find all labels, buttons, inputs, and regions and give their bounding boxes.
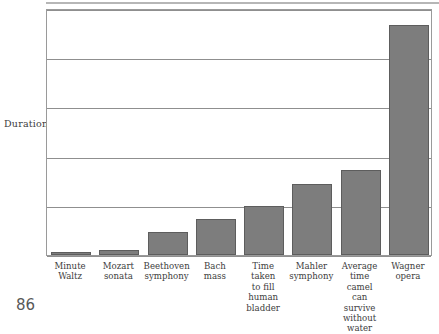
y-axis-label: Duration bbox=[4, 118, 48, 129]
gridline bbox=[47, 256, 431, 257]
x-axis-label-line: human bbox=[233, 292, 293, 302]
x-axis-label-line: camel bbox=[330, 282, 390, 292]
x-axis-label-line: opera bbox=[378, 271, 438, 281]
bar bbox=[389, 25, 429, 255]
x-axis-label-line: water bbox=[330, 323, 390, 333]
plot-area bbox=[46, 9, 432, 256]
x-axis-label-line: survive bbox=[330, 303, 390, 313]
page-number: 86 bbox=[16, 296, 35, 314]
x-axis-labels: MinuteWaltzMozartsonataBeethovensymphony… bbox=[46, 261, 432, 334]
bar bbox=[51, 252, 91, 255]
bar bbox=[99, 250, 139, 255]
bar bbox=[292, 184, 332, 255]
bar bbox=[244, 206, 284, 255]
bar bbox=[341, 170, 381, 255]
chart-page: Duration MinuteWaltzMozartsonataBeethove… bbox=[0, 0, 439, 334]
x-axis-label-line: Wagner bbox=[378, 261, 438, 271]
bar-series bbox=[47, 10, 431, 255]
x-axis-label-line: without bbox=[330, 313, 390, 323]
x-axis-label: Wagneropera bbox=[378, 261, 438, 282]
header-rule bbox=[46, 2, 439, 4]
x-axis-label-line: to fill bbox=[233, 282, 293, 292]
bar bbox=[196, 219, 236, 255]
x-axis-label-line: bladder bbox=[233, 303, 293, 313]
x-axis-label-line: can bbox=[330, 292, 390, 302]
bar bbox=[148, 232, 188, 255]
